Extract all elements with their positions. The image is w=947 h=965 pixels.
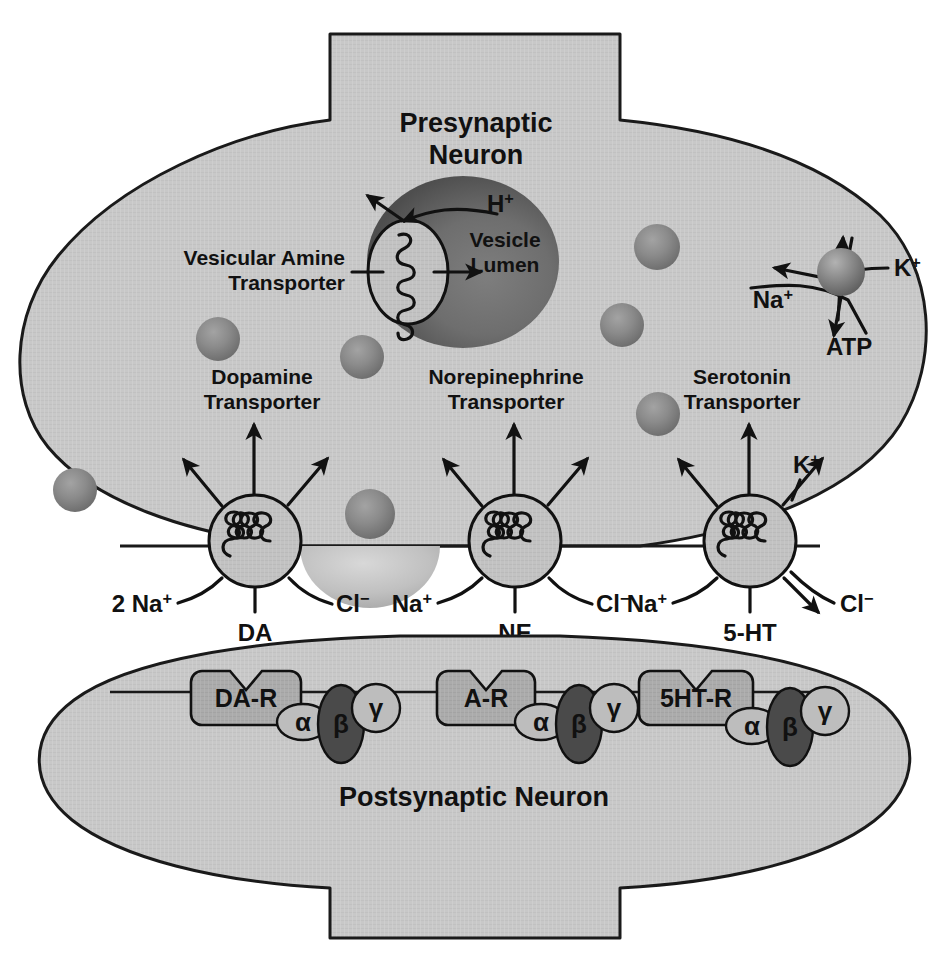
dat-body bbox=[209, 495, 301, 587]
vesicle-dot bbox=[634, 224, 680, 270]
sert-substrate-label: 5-HT bbox=[723, 619, 777, 646]
net-sodium-label: Na+ bbox=[392, 589, 432, 617]
beta-label: β bbox=[333, 709, 349, 739]
presynaptic-title-line1: Presynaptic bbox=[399, 108, 552, 138]
vesicular-amine-transporter-label-line1: Vesicular Amine bbox=[184, 246, 345, 269]
beta-label: β bbox=[782, 712, 798, 742]
vesicle-dot bbox=[600, 303, 644, 347]
gamma-label: γ bbox=[818, 696, 833, 726]
dat-chloride-label: Cl− bbox=[336, 589, 370, 617]
vesicle-dot bbox=[53, 468, 97, 512]
gamma-label: γ bbox=[607, 693, 622, 723]
net-tail-right bbox=[549, 578, 592, 604]
postsynaptic-title: Postsynaptic Neuron bbox=[339, 782, 609, 812]
dat-substrate-label: DA bbox=[238, 619, 273, 646]
alpha-label: α bbox=[295, 707, 311, 737]
adrenergic-receptor-label: A-R bbox=[464, 684, 508, 712]
serotonin-transporter-label-line2: Transporter bbox=[684, 390, 801, 413]
norepinephrine-transporter-label-line2: Transporter bbox=[448, 390, 565, 413]
sert-tail-left bbox=[673, 578, 717, 603]
serotonin-receptor-label: 5HT-R bbox=[660, 684, 732, 712]
pump-body bbox=[817, 248, 865, 296]
net-tail-left bbox=[438, 578, 482, 603]
vesicle-lumen-line1: Vesicle bbox=[469, 228, 540, 251]
vesicle-dot bbox=[340, 335, 384, 379]
dopamine-transporter-label-line2: Transporter bbox=[204, 390, 321, 413]
vesicular-amine-transporter-label-line2: Transporter bbox=[228, 271, 345, 294]
diagram-canvas: Presynaptic Neuron Vesicle Lumen Vesicul… bbox=[0, 0, 947, 965]
sert-sodium-label: Na+ bbox=[627, 589, 667, 617]
dopamine-receptor-label: DA-R bbox=[215, 684, 278, 712]
gamma-label: γ bbox=[369, 693, 384, 723]
serotonin-transporter-label-line1: Serotonin bbox=[693, 365, 791, 388]
vesicle-dot bbox=[636, 392, 680, 436]
synapse-diagram: Presynaptic Neuron Vesicle Lumen Vesicul… bbox=[0, 0, 947, 965]
beta-label: β bbox=[571, 709, 587, 739]
sert-tail-right bbox=[791, 572, 834, 603]
vesicle-dot-fusing bbox=[345, 489, 395, 539]
norepinephrine-transporter-label-line1: Norepinephrine bbox=[428, 365, 583, 388]
net-body bbox=[469, 495, 561, 587]
alpha-label: α bbox=[533, 707, 549, 737]
sert-body bbox=[704, 495, 796, 587]
dopamine-transporter-label-line1: Dopamine bbox=[211, 365, 313, 388]
vesicle-dot bbox=[196, 317, 240, 361]
dat-sodium-label: 2 Na+ bbox=[112, 589, 172, 617]
presynaptic-title-line2: Neuron bbox=[429, 140, 524, 170]
pump-atp-label: ATP bbox=[826, 333, 872, 360]
alpha-label: α bbox=[744, 711, 760, 741]
sert-chloride-label: Cl− bbox=[840, 589, 874, 617]
net-chloride-label: Cl− bbox=[596, 589, 630, 617]
dat-tail-left bbox=[178, 578, 222, 603]
